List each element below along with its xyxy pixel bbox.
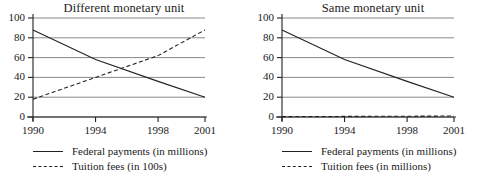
y-tick-label-right-0: 0 — [249, 111, 274, 122]
legend-label-federal-payments-right: Federal payments (in millions) — [321, 144, 456, 159]
y-tick-label-left-80: 80 — [0, 32, 25, 43]
series-line-right-0 — [282, 30, 454, 97]
plot-svg-left — [0, 0, 248, 140]
x-tick-label-right-1998: 1998 — [385, 125, 429, 136]
legend-solid-line-swatch-icon — [282, 151, 312, 152]
chart-panel-same-monetary-unit: Same monetary unit 020406080100199019941… — [249, 0, 497, 186]
legend-right: Federal payments (in millions) Tuition f… — [249, 144, 497, 174]
x-tick-label-left-1998: 1998 — [136, 125, 180, 136]
legend-item-federal-payments-right: Federal payments (in millions) — [249, 144, 497, 159]
series-line-left-0 — [33, 30, 205, 97]
y-tick-label-left-0: 0 — [0, 111, 25, 122]
x-tick-label-right-2001: 2001 — [432, 125, 476, 136]
chart-panel-different-monetary-unit: Different monetary unit 0204060801001990… — [0, 0, 248, 186]
y-tick-label-left-100: 100 — [0, 12, 25, 23]
legend-label-federal-payments-left: Federal payments (in millions) — [72, 144, 207, 159]
legend-item-tuition-fees-left: Tuition fees (in 100s) — [0, 159, 248, 174]
legend-label-tuition-fees-right: Tuition fees (in millions) — [321, 159, 431, 174]
x-tick-label-left-1994: 1994 — [74, 125, 118, 136]
legend-dashed-line-swatch-icon — [33, 166, 63, 167]
x-tick-label-right-1990: 1990 — [260, 125, 304, 136]
y-tick-label-left-60: 60 — [0, 52, 25, 63]
legend-label-tuition-fees-left: Tuition fees (in 100s) — [72, 159, 167, 174]
figure-two-line-charts: Different monetary unit 0204060801001990… — [0, 0, 497, 186]
legend-dashed-line-swatch-icon — [282, 166, 312, 167]
y-tick-label-left-20: 20 — [0, 91, 25, 102]
y-tick-label-right-20: 20 — [249, 91, 274, 102]
y-tick-label-right-40: 40 — [249, 71, 274, 82]
legend-item-federal-payments-left: Federal payments (in millions) — [0, 144, 248, 159]
plot-area-right: 0204060801001990199419982001 — [249, 0, 497, 140]
plot-svg-right — [249, 0, 497, 140]
x-tick-label-right-1994: 1994 — [323, 125, 367, 136]
legend-left: Federal payments (in millions) Tuition f… — [0, 144, 248, 174]
legend-item-tuition-fees-right: Tuition fees (in millions) — [249, 159, 497, 174]
legend-solid-line-swatch-icon — [33, 151, 63, 152]
y-tick-label-right-60: 60 — [249, 52, 274, 63]
y-tick-label-left-40: 40 — [0, 71, 25, 82]
x-tick-label-left-2001: 2001 — [183, 125, 227, 136]
x-tick-label-left-1990: 1990 — [11, 125, 55, 136]
y-tick-label-right-100: 100 — [249, 12, 274, 23]
y-tick-label-right-80: 80 — [249, 32, 274, 43]
plot-area-left: 0204060801001990199419982001 — [0, 0, 248, 140]
